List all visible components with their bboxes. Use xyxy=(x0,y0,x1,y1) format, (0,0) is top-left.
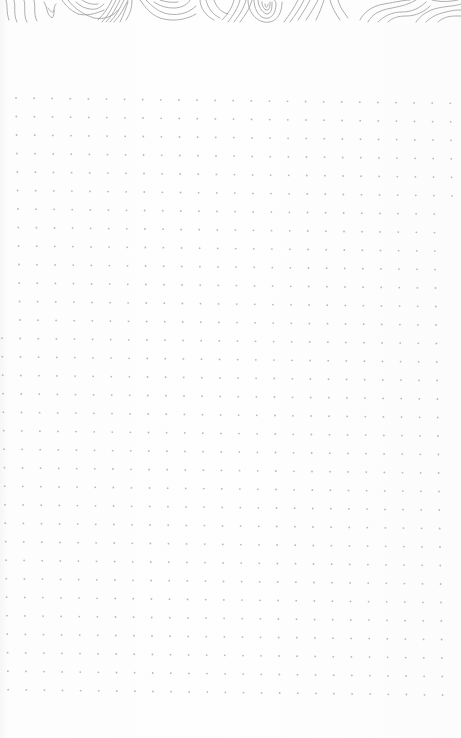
grid-dot xyxy=(216,229,218,231)
grid-dot xyxy=(19,301,21,303)
grid-dot xyxy=(181,284,183,286)
grid-dot xyxy=(36,245,38,247)
grid-dot xyxy=(271,267,273,269)
grid-dot xyxy=(203,469,205,471)
grid-dot xyxy=(291,359,293,361)
grid-dot xyxy=(19,338,21,340)
grid-dot xyxy=(206,673,208,675)
grid-dot xyxy=(125,172,127,174)
grid-dot xyxy=(205,617,207,619)
grid-dot xyxy=(216,174,218,176)
grid-dot xyxy=(258,562,260,564)
grid-dot xyxy=(51,98,53,100)
grid-dot xyxy=(42,615,44,617)
grid-dot xyxy=(332,637,334,639)
grid-dot xyxy=(125,154,127,156)
grid-dot xyxy=(152,672,154,674)
grid-dot xyxy=(107,154,109,156)
grid-dot xyxy=(149,524,151,526)
grid-dot xyxy=(220,414,222,416)
grid-dot xyxy=(239,488,241,490)
grid-dot xyxy=(201,395,203,397)
grid-dot xyxy=(52,116,54,118)
grid-dot xyxy=(360,138,362,140)
grid-dot xyxy=(421,564,423,566)
grid-dot xyxy=(420,472,422,474)
grid-dot xyxy=(92,375,94,377)
grid-dot xyxy=(382,361,384,363)
grid-dot xyxy=(186,580,188,582)
grid-dot xyxy=(37,338,39,340)
grid-dot xyxy=(314,637,316,639)
grid-dot xyxy=(290,267,292,269)
grid-dot xyxy=(183,377,185,379)
grid-dot xyxy=(152,691,154,693)
grid-dot xyxy=(257,488,259,490)
grid-dot xyxy=(201,358,203,360)
grid-dot xyxy=(6,596,8,598)
grid-dot xyxy=(350,638,352,640)
grid-dot xyxy=(185,525,187,527)
grid-dot xyxy=(2,393,4,395)
grid-dot xyxy=(450,139,452,141)
grid-dot xyxy=(143,173,145,175)
grid-dot xyxy=(273,378,275,380)
grid-dot xyxy=(166,469,168,471)
grid-dot xyxy=(223,581,225,583)
grid-dot xyxy=(294,544,296,546)
grid-dot xyxy=(79,634,81,636)
grid-dot xyxy=(369,693,371,695)
grid-dot xyxy=(403,546,405,548)
grid-dot xyxy=(332,600,334,602)
grid-dot xyxy=(21,449,23,451)
grid-dot xyxy=(367,564,369,566)
grid-dot xyxy=(288,156,290,158)
grid-dot xyxy=(289,211,291,213)
grid-dot xyxy=(381,342,383,344)
grid-dot xyxy=(294,526,296,528)
grid-dot xyxy=(18,282,20,284)
grid-dot xyxy=(145,284,147,286)
grid-dot xyxy=(256,433,258,435)
grid-dot xyxy=(438,454,440,456)
grid-dot xyxy=(385,527,387,529)
grid-dot xyxy=(43,652,45,654)
grid-dot xyxy=(184,451,186,453)
grid-dot xyxy=(143,154,145,156)
grid-dot xyxy=(202,451,204,453)
grid-dot xyxy=(273,359,275,361)
grid-dot xyxy=(397,231,399,233)
grid-dot xyxy=(327,360,329,362)
grid-dot xyxy=(72,246,74,248)
grid-dot xyxy=(129,394,131,396)
grid-dot xyxy=(417,324,419,326)
grid-dot xyxy=(113,505,115,507)
grid-dot xyxy=(237,377,239,379)
grid-dot xyxy=(440,602,442,604)
grid-dot xyxy=(311,471,313,473)
grid-dot xyxy=(41,560,43,562)
grid-dot xyxy=(362,286,364,288)
grid-dot xyxy=(260,655,262,657)
grid-dot xyxy=(438,491,440,493)
grid-dot xyxy=(96,579,98,581)
grid-dot xyxy=(1,337,3,339)
grid-dot xyxy=(255,340,257,342)
grid-dot xyxy=(35,190,37,192)
grid-dot xyxy=(109,265,111,267)
grid-dot xyxy=(115,616,117,618)
grid-dot xyxy=(59,523,61,525)
grid-dot xyxy=(7,689,9,691)
grid-dot xyxy=(17,190,19,192)
grid-dot xyxy=(70,116,72,118)
grid-dot xyxy=(437,398,439,400)
grid-dot xyxy=(215,155,217,157)
grid-dot xyxy=(422,620,424,622)
grid-dot xyxy=(131,487,133,489)
grid-dot xyxy=(93,412,95,414)
grid-dot xyxy=(186,562,188,564)
grid-dot xyxy=(55,283,57,285)
grid-dot xyxy=(206,654,208,656)
grid-dot xyxy=(22,504,24,506)
grid-dot xyxy=(216,211,218,213)
